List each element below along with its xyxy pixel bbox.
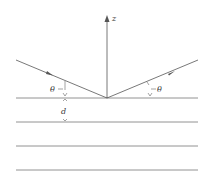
incident-angle-marker: [58, 81, 67, 96]
bragg-diagram: z θ d θ: [0, 0, 215, 172]
diagram-canvas: z θ d θ: [0, 0, 215, 172]
reflected-angle-marker: [147, 82, 156, 96]
z-axis-label: z: [111, 14, 117, 23]
incident-angle-label: θ: [50, 85, 55, 94]
incident-arrow-icon: [46, 71, 53, 76]
reflected-ray: [107, 60, 198, 98]
crystal-planes: [16, 98, 198, 170]
spacing-label: d: [61, 107, 66, 116]
reflected-angle-label: θ: [157, 85, 162, 94]
incident-ray: [16, 60, 107, 98]
z-axis: [105, 15, 110, 98]
z-arrowhead-icon: [105, 15, 110, 22]
